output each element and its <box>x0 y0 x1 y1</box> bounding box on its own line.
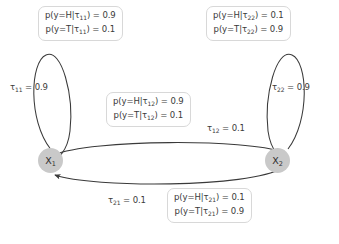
emission-box-tau11: p(y=H|τ11) = 0.9 p(y=T|τ11) = 0.1 <box>38 6 123 41</box>
emission-line-head: p(y=H|τ11) = 0.9 <box>45 11 116 20</box>
emission-line-head: p(y=H|τ21) = 0.1 <box>174 193 245 202</box>
emission-line-tail: p(y=T|τ11) = 0.1 <box>46 25 115 34</box>
emission-box-tau22: p(y=H|τ22) = 0.1 p(y=T|τ22) = 0.9 <box>206 6 291 41</box>
state-node-x1: X1 <box>38 148 63 173</box>
emission-line-tail: p(y=T|τ22) = 0.9 <box>214 25 283 34</box>
transition-x1-to-x2-arc <box>54 143 281 155</box>
transition-label-tau21: τ21 = 0.1 <box>108 195 146 205</box>
transition-label-tau12: τ12 = 0.1 <box>207 123 245 133</box>
state-node-x1-label: X1 <box>45 155 56 166</box>
emission-box-tau21: p(y=H|τ21) = 0.1 p(y=T|τ21) = 0.9 <box>167 188 252 223</box>
transition-label-tau22: τ22 = 0.9 <box>272 82 310 92</box>
transition-x2-to-x1-arc <box>55 168 282 184</box>
hmm-diagram-canvas: p(y=H|τ11) = 0.9 p(y=T|τ11) = 0.1 p(y=H|… <box>0 0 339 244</box>
emission-line-tail: p(y=T|τ21) = 0.9 <box>175 207 244 216</box>
state-node-x2-label: X2 <box>272 155 283 166</box>
transition-label-tau11: τ11 = 0.9 <box>10 82 48 92</box>
emission-line-head: p(y=H|τ22) = 0.1 <box>213 11 284 20</box>
emission-box-tau12: p(y=H|τ12) = 0.9 p(y=T|τ12) = 0.1 <box>106 92 191 127</box>
emission-line-tail: p(y=T|τ12) = 0.1 <box>114 111 183 120</box>
emission-line-head: p(y=H|τ12) = 0.9 <box>113 97 184 106</box>
self-loop-x2-arc <box>267 54 304 160</box>
self-loop-x1-arc <box>34 54 71 160</box>
state-node-x2: X2 <box>265 148 290 173</box>
